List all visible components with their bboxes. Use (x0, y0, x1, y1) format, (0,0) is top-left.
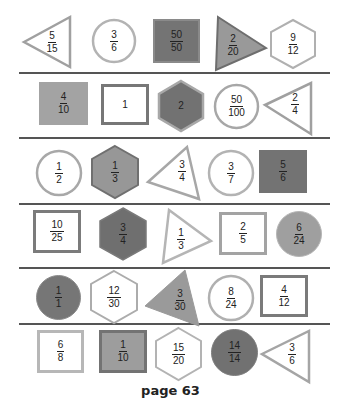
fraction-shape-square: 5050 (153, 19, 200, 63)
whole-number: 2 (178, 101, 184, 111)
denominator: 24 (293, 235, 304, 246)
fraction-shape-hexagon: 13 (91, 145, 139, 199)
fraction-shape-circle: 824 (208, 275, 254, 321)
fraction-shape-square: 412 (260, 275, 308, 317)
denominator: 100 (228, 107, 245, 118)
numerator: 3 (227, 162, 235, 174)
numerator: 10 (50, 220, 63, 232)
denominator: 1 (56, 298, 62, 309)
numerator: 50 (230, 95, 243, 107)
numerator: 9 (289, 33, 297, 45)
denominator: 50 (171, 42, 182, 53)
numerator: 2 (291, 93, 299, 105)
fraction-shape-hexagon: 1520 (155, 327, 202, 381)
fraction-shape-square: 25 (219, 212, 267, 255)
denominator: 15 (46, 43, 57, 54)
denominator: 30 (108, 298, 119, 309)
fraction-shape-triangle: 36 (260, 329, 312, 384)
fraction-shape-hexagon: 1230 (90, 270, 138, 324)
numerator: 1 (177, 228, 185, 240)
numerator: 1 (55, 286, 63, 298)
numerator: 1 (55, 162, 63, 174)
numerator: 6 (295, 223, 303, 235)
row-separator (19, 137, 330, 139)
row-separator (19, 72, 330, 74)
denominator: 4 (292, 105, 298, 116)
denominator: 8 (58, 352, 64, 363)
fraction-shape-circle: 11 (36, 275, 81, 320)
fraction-shape-square: 110 (99, 330, 147, 373)
fraction-shape-triangle: 515 (22, 15, 72, 69)
denominator: 3 (178, 240, 184, 251)
fraction-shape-circle: 37 (208, 150, 254, 196)
whole-number: 1 (122, 100, 128, 110)
denominator: 3 (112, 173, 118, 184)
fraction-shape-circle: 50100 (214, 84, 259, 129)
fraction-shape-circle: 624 (276, 211, 322, 257)
fraction-shape-triangle: 220 (214, 15, 268, 71)
numerator: 14 (228, 341, 241, 353)
fraction-shape-triangle: 24 (263, 81, 313, 136)
numerator: 1 (119, 340, 127, 352)
fraction-shape-square: 1 (101, 84, 149, 125)
denominator: 7 (228, 174, 234, 185)
fraction-shape-circle: 12 (36, 150, 82, 196)
fraction-shape-square: 68 (37, 330, 84, 373)
numerator: 50 (170, 30, 183, 42)
denominator: 10 (58, 104, 69, 115)
numerator: 4 (60, 92, 68, 104)
denominator: 6 (280, 172, 286, 183)
page-number-label: page 63 (0, 383, 341, 398)
numerator: 2 (239, 222, 247, 234)
numerator: 15 (172, 343, 185, 355)
numerator: 3 (176, 289, 184, 301)
numerator: 1 (111, 161, 119, 173)
numerator: 8 (227, 287, 235, 299)
numerator: 3 (119, 223, 127, 235)
numerator: 5 (48, 31, 56, 43)
numerator: 3 (288, 343, 296, 355)
denominator: 20 (173, 355, 184, 366)
fraction-shape-square: 56 (259, 150, 307, 193)
fraction-shape-circle: 36 (92, 19, 136, 63)
numerator: 3 (110, 30, 118, 42)
fraction-shape-hexagon: 2 (158, 80, 204, 132)
denominator: 10 (117, 352, 128, 363)
fraction-shape-hexagon: 34 (99, 207, 147, 261)
denominator: 4 (120, 235, 126, 246)
denominator: 12 (287, 45, 298, 56)
denominator: 30 (174, 301, 185, 312)
fraction-shape-triangle: 34 (146, 145, 201, 201)
fraction-shape-triangle: 330 (144, 269, 200, 327)
fraction-shape-square: 1025 (33, 210, 81, 253)
denominator: 5 (240, 234, 246, 245)
denominator: 6 (289, 355, 295, 366)
denominator: 6 (111, 42, 117, 53)
numerator: 5 (279, 160, 287, 172)
numerator: 6 (57, 340, 65, 352)
fraction-shape-hexagon: 912 (270, 19, 316, 69)
denominator: 14 (229, 353, 240, 364)
numerator: 12 (107, 286, 120, 298)
row-separator (19, 203, 330, 205)
fraction-shape-circle: 1414 (211, 329, 258, 376)
denominator: 24 (225, 299, 236, 310)
numerator: 4 (280, 285, 288, 297)
denominator: 12 (278, 297, 289, 308)
denominator: 25 (51, 232, 62, 243)
denominator: 20 (227, 46, 238, 57)
denominator: 4 (179, 172, 185, 183)
fraction-shape-square: 410 (39, 82, 88, 125)
fraction-shape-triangle: 13 (161, 208, 213, 264)
denominator: 2 (56, 174, 62, 185)
numerator: 2 (229, 34, 237, 46)
numerator: 3 (178, 160, 186, 172)
